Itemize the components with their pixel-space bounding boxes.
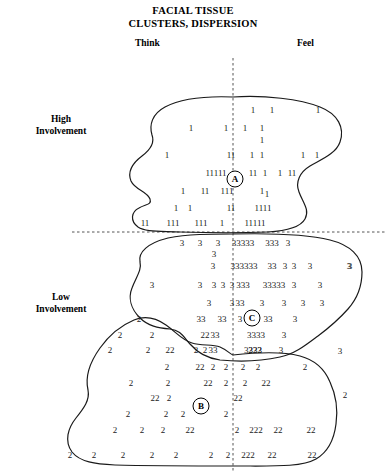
cluster-a-marker: 1: [189, 124, 194, 133]
cluster-c-marker: 333: [236, 281, 250, 290]
cluster-badge-b: B: [193, 398, 210, 415]
cluster-b-marker: 2: [113, 426, 118, 435]
cluster-c-marker: 3: [292, 281, 297, 290]
cluster-a-marker: 1: [174, 204, 179, 213]
cluster-b-marker: 22: [151, 394, 160, 403]
cluster-a-marker: 1: [265, 190, 270, 199]
cluster-a-marker: 1111: [255, 204, 272, 213]
cluster-b-marker: 22: [201, 331, 210, 340]
cluster-b-marker: 2: [126, 410, 131, 419]
cluster-a-marker: 1: [316, 106, 321, 115]
cluster-a-marker: 11: [227, 204, 236, 213]
cluster-b-marker: 2: [224, 363, 229, 372]
cluster-a-marker: 1: [251, 106, 256, 115]
cluster-b-marker: 2: [224, 379, 229, 388]
cluster-c-marker: 3: [230, 299, 235, 308]
cluster-b-marker: 2: [121, 451, 126, 460]
cluster-c-marker: 33: [236, 299, 245, 308]
cluster-b-marker: 2: [181, 410, 186, 419]
cluster-b-marker: 2: [241, 363, 246, 372]
cluster-c-marker: 3: [150, 281, 155, 290]
cluster-c-marker: 3: [180, 239, 185, 248]
cluster-c-marker: 3: [198, 239, 203, 248]
cluster-c-marker: 33: [197, 315, 206, 324]
cluster-a-marker: 11111: [244, 219, 265, 228]
cluster-c-marker: 3: [286, 239, 291, 248]
cluster-b-outline: [68, 318, 337, 467]
cluster-c-marker: 33: [264, 315, 273, 324]
cluster-b-marker: 2: [146, 346, 151, 355]
cluster-b-marker: 222: [241, 451, 255, 460]
cluster-a-marker: 1: [250, 151, 255, 160]
cluster-b-marker: 2: [226, 451, 231, 460]
cluster-c-marker: 3: [238, 315, 243, 324]
cluster-a-marker: 1: [260, 187, 265, 196]
cluster-c-marker: 3: [212, 281, 217, 290]
cluster-c-marker: 3: [301, 299, 306, 308]
cluster-a-marker: 11: [288, 169, 297, 178]
cluster-c-marker: 3: [282, 299, 287, 308]
cluster-a-outline: [130, 96, 342, 232]
chart-canvas: FACIAL TISSUE CLUSTERS, DISPERSION Think…: [0, 0, 386, 473]
cluster-a-marker: 1: [260, 151, 265, 160]
cluster-b-marker: 22: [307, 426, 316, 435]
cluster-b-marker: 2: [118, 331, 123, 340]
cluster-c-marker: 3: [216, 239, 221, 248]
cluster-b-marker: 2: [194, 346, 199, 355]
cluster-b-marker: 2: [164, 410, 169, 419]
cluster-b-marker: 22: [186, 426, 195, 435]
cluster-b-marker: 22: [274, 426, 283, 435]
cluster-c-marker: 3: [292, 262, 297, 271]
cluster-b-marker: 2: [343, 391, 348, 400]
cluster-b-marker: 22: [196, 363, 205, 372]
cluster-b-marker: 2: [243, 379, 248, 388]
cluster-c-marker: 3: [308, 262, 313, 271]
cluster-b-marker: 22: [166, 346, 175, 355]
cluster-a-marker: 1: [263, 169, 268, 178]
cluster-b-marker: 2: [165, 363, 170, 372]
cluster-a-marker: 1: [188, 204, 193, 213]
cluster-c-marker: 33333: [232, 239, 255, 248]
cluster-b-marker: 22: [234, 394, 243, 403]
cluster-b-marker: 2: [203, 346, 208, 355]
cluster-b-marker: 2: [174, 451, 179, 460]
cluster-c-marker: 3: [282, 331, 287, 340]
cluster-b-marker: 22: [262, 379, 271, 388]
cluster-b-marker: 2: [303, 363, 308, 372]
cluster-b-marker: 2: [137, 315, 142, 324]
cluster-c-marker: 3: [320, 299, 325, 308]
cluster-a-marker: 1: [181, 187, 186, 196]
cluster-b-marker: 22: [308, 451, 317, 460]
cluster-b-marker: 2: [140, 426, 145, 435]
cluster-c-marker: 3: [293, 315, 298, 324]
cluster-a-marker: 11: [249, 169, 258, 178]
cluster-c-marker: 333333: [231, 262, 258, 271]
cluster-a-marker: 1: [243, 124, 248, 133]
cluster-b-marker: 2: [68, 451, 73, 460]
cluster-c-marker: 3: [279, 346, 284, 355]
cluster-a-marker: 11111: [205, 169, 226, 178]
cluster-b-marker: 2: [224, 410, 229, 419]
cluster-c-marker: 3: [212, 250, 217, 259]
cluster-a-marker: 111: [195, 219, 208, 228]
cluster-b-marker: 2: [92, 451, 97, 460]
cluster-b-marker: 2: [211, 363, 216, 372]
cluster-c-marker: 3: [347, 262, 352, 271]
cluster-a-marker: 11: [141, 219, 150, 228]
cluster-a-marker: 1: [260, 136, 265, 145]
cluster-c-marker: 3: [283, 262, 288, 271]
cluster-b-marker: 22: [268, 451, 277, 460]
cluster-c-outline: [130, 234, 362, 361]
cluster-a-marker: 111: [167, 219, 180, 228]
cluster-badge-a: A: [227, 171, 244, 188]
cluster-b-marker: 222: [248, 346, 262, 355]
cluster-b-marker: 2: [256, 363, 261, 372]
cluster-badge-c: C: [244, 310, 261, 327]
cluster-a-marker: 1: [278, 169, 283, 178]
cluster-b-marker: 2: [209, 451, 214, 460]
cluster-c-marker: 3: [221, 281, 226, 290]
cluster-a-marker: 1: [301, 151, 306, 160]
cluster-a-marker: 1: [315, 151, 320, 160]
cluster-b-marker: 2: [108, 346, 113, 355]
cluster-c-marker: 3: [260, 299, 265, 308]
